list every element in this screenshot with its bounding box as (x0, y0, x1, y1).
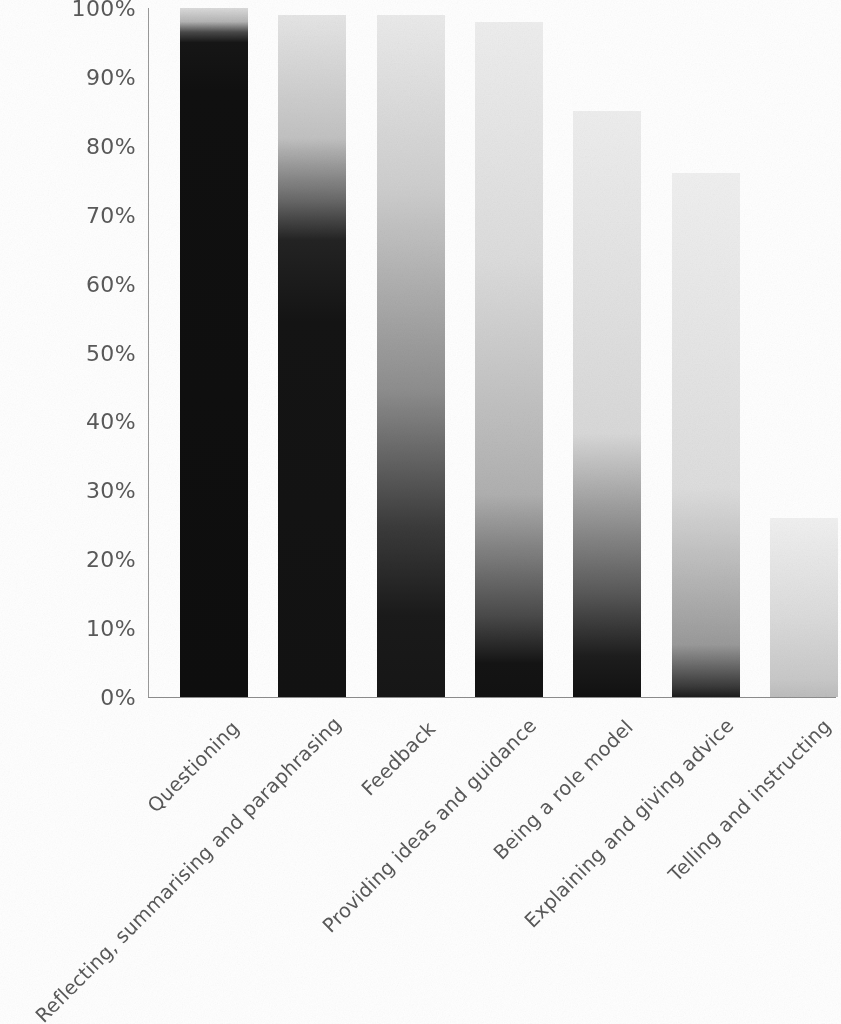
bar-fill (672, 173, 740, 697)
y-axis-tick-30: 30% (6, 478, 136, 503)
y-axis-tick-40: 40% (6, 409, 136, 434)
bar-7 (770, 518, 838, 697)
y-axis-tick-10: 10% (6, 616, 136, 641)
bar-fill (180, 8, 248, 697)
y-axis-tick-70: 70% (6, 202, 136, 227)
bar-fill (278, 15, 346, 697)
y-axis-tick-90: 90% (6, 64, 136, 89)
bar-fill (475, 22, 543, 697)
bar-6 (672, 173, 740, 697)
bar-2 (278, 15, 346, 697)
x-axis-line (148, 697, 836, 698)
bar-chart: 100%90%80%70%60%50%40%30%20%10%0% Questi… (0, 0, 841, 1024)
y-axis-tick-50: 50% (6, 340, 136, 365)
y-axis-tick-20: 20% (6, 547, 136, 572)
x-axis-label-6: Explaining and giving advice (520, 714, 738, 932)
bar-1 (180, 8, 248, 697)
x-axis-category-labels: QuestioningReflecting, summarising and p… (0, 700, 841, 1024)
bar-5 (573, 111, 641, 697)
bar-3 (377, 15, 445, 697)
y-axis-tick-100: 100% (6, 0, 136, 21)
bar-fill (770, 518, 838, 697)
y-axis-tick-80: 80% (6, 133, 136, 158)
bar-4 (475, 22, 543, 697)
plot-area (148, 8, 836, 698)
x-axis-label-1: Questioning (143, 716, 244, 817)
y-axis-tick-labels: 100%90%80%70%60%50%40%30%20%10%0% (0, 0, 136, 710)
bar-fill (377, 15, 445, 697)
y-axis-tick-60: 60% (6, 271, 136, 296)
x-axis-label-4: Providing ideas and guidance (318, 714, 541, 937)
x-axis-label-3: Feedback (357, 717, 440, 800)
x-axis-label-7: Telling and instructing (664, 715, 836, 887)
y-axis-line (148, 8, 149, 697)
bar-fill (573, 111, 641, 697)
